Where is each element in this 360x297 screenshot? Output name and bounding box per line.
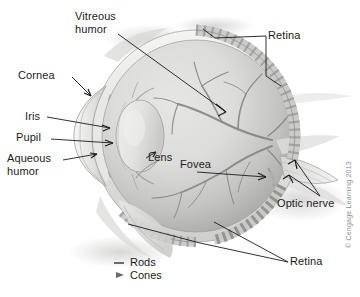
label-retina-top: Retina [268,29,300,42]
leader-cornea [72,77,91,96]
label-iris: Iris [25,110,40,123]
label-lens: Lens [148,151,172,164]
label-vitreous-humor-line2: humor [75,23,107,35]
eye-anatomy-figure: Vitreous humor Cornea Iris Pupil Aqueous… [0,0,360,297]
label-fovea: Fovea [180,158,211,171]
cone-symbol [116,272,124,278]
label-aqueous-humor-line2: humor [7,165,39,177]
label-vitreous-humor-line1: Vitreous [75,10,116,22]
label-cornea: Cornea [18,69,55,82]
label-optic-nerve: Optic nerve [277,197,334,210]
label-vitreous-humor: Vitreous humor [75,10,116,35]
label-aqueous-humor: Aqueous humor [7,152,51,177]
eye-diagram-illustration [0,0,360,297]
legend-label-cones: Cones [130,269,162,281]
legend-label-rods: Rods [130,256,156,268]
label-retina-bottom: Retina [290,255,322,268]
copyright-credit: © Cengage Learning 2013 [345,161,352,248]
label-aqueous-humor-line1: Aqueous [7,152,51,164]
label-pupil: Pupil [16,131,41,144]
